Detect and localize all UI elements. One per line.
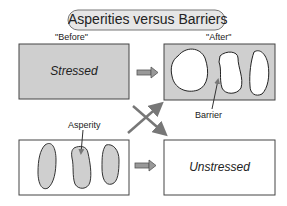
- patch-middle: [219, 52, 242, 93]
- stressed-label: Stressed: [19, 64, 129, 78]
- arrow-top-horizontal: [137, 67, 158, 78]
- barrier-label: Barrier: [195, 110, 222, 120]
- asperity-right: [102, 145, 119, 185]
- asperity-label: Asperity: [68, 120, 101, 130]
- arrow-bottom-horizontal: [135, 160, 156, 171]
- patch-right: [250, 51, 269, 95]
- diagram-title: Asperities versus Barriers: [68, 11, 225, 27]
- after-label: "After": [206, 32, 231, 42]
- arrow-cross-up: [128, 105, 160, 133]
- arrow-cross-down: [133, 106, 164, 133]
- diagram-canvas: [0, 0, 287, 206]
- unstressed-label: Unstressed: [164, 160, 275, 174]
- before-label: "Before": [55, 32, 88, 42]
